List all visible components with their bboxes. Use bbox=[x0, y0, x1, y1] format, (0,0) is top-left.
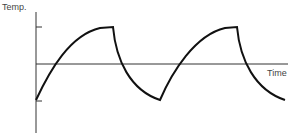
temperature-chart bbox=[0, 0, 298, 139]
x-axis-label: Time bbox=[267, 68, 287, 78]
y-axis-label: Temp. bbox=[2, 2, 27, 12]
